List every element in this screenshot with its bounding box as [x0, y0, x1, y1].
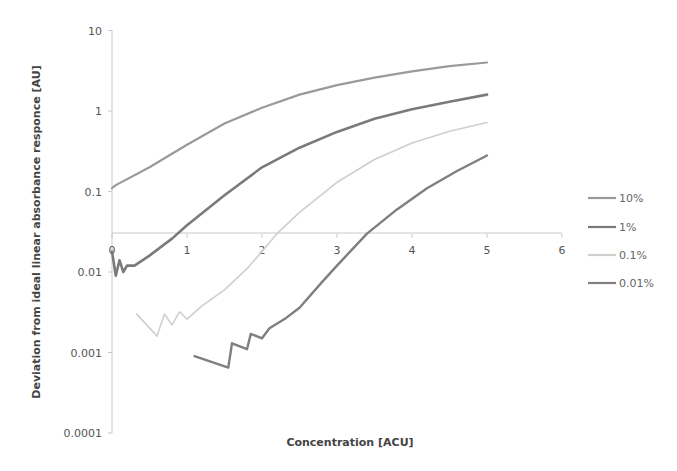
y-tick-label: 0.001: [71, 347, 103, 360]
y-axis-title: Deviation from ideal linear absorbance r…: [30, 65, 43, 398]
x-tick-label: 1: [184, 244, 191, 257]
x-tick-labels: 0123456: [109, 234, 566, 257]
series-line-0-1-: [137, 123, 487, 337]
legend-item: 1%: [588, 221, 636, 234]
chart: 1010.10.010.0010.0001 0123456 Concentrat…: [0, 0, 677, 471]
legend-item: 10%: [588, 192, 643, 205]
x-tick-label: 3: [334, 244, 341, 257]
x-tick-label: 4: [409, 244, 416, 257]
y-tick-label: 1: [95, 105, 102, 118]
y-tick-labels: 1010.10.010.0010.0001: [64, 25, 113, 441]
legend-item: 0.1%: [588, 249, 647, 262]
legend-label: 1%: [619, 221, 636, 234]
y-tick-label: 0.1: [85, 186, 103, 199]
legend-label: 10%: [619, 192, 643, 205]
plot-area: [112, 63, 487, 368]
y-tick-label: 0.0001: [64, 427, 103, 440]
series-line-0-01-: [195, 156, 488, 368]
x-tick-label: 5: [484, 244, 491, 257]
series-line-10-: [112, 63, 487, 189]
legend-label: 0.1%: [619, 249, 647, 262]
x-axis-title: Concentration [ACU]: [286, 436, 413, 449]
y-tick-label: 0.01: [78, 266, 103, 279]
legend-label: 0.01%: [619, 277, 654, 290]
x-tick-label: 6: [559, 244, 566, 257]
legend: 10%1%0.1%0.01%: [588, 192, 654, 290]
y-tick-label: 10: [88, 25, 102, 38]
legend-item: 0.01%: [588, 277, 654, 290]
